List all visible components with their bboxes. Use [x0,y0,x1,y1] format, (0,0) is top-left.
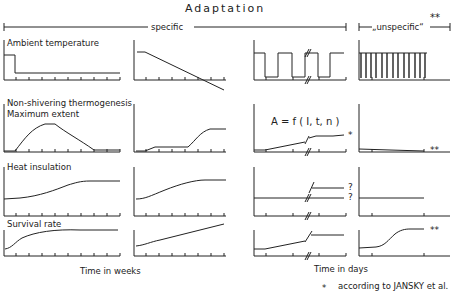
group-label-specific: specific [151,23,183,32]
row-label-heat-insulation: Heat insulation [7,163,71,172]
footnote-marker: * [322,284,326,293]
diagram-title: Adaptation [185,3,265,14]
row-sublabel-maximum-extent: Maximum extent [7,110,79,119]
row-survival-rate [4,224,450,260]
row-label-ambient-temperature: Ambient temperature [7,39,99,48]
panel-days-1 [254,104,346,156]
panel-weeks-2 [134,104,226,152]
formula: A = f ( I, t, n ) [271,117,339,127]
group-label-unspecific: „unspecific“ [372,23,424,32]
question-mark-lower: ? [348,193,353,202]
row-label-non-shivering-thermogenesis: Non-shivering thermogenesis [7,99,132,108]
footnote-text: according to JANSKY et al. [338,282,448,291]
question-mark-upper: ? [348,183,353,192]
panel-unspecific-1 [359,167,450,216]
panel-weeks-2 [134,40,226,90]
star-annotation-thermogenesis: * [348,131,353,140]
row-heat-insulation [4,167,450,220]
row-label-survival-rate: Survival rate [7,220,61,229]
panel-weeks-2 [134,167,226,216]
panel-weeks-2 [134,224,226,256]
x-axis-label-weeks: Time in weeks [80,267,141,276]
panel-days-1 [254,230,346,260]
panel-weeks-1 [4,167,120,216]
unspecific-double-star: ** [430,13,440,23]
panel-days-1 [254,40,346,84]
panel-days-1 [254,167,346,220]
panel-weeks-1 [4,230,120,256]
double-star-annotation-survival: ** [430,226,439,235]
x-axis-label-days: Time in days [314,265,368,274]
panel-unspecific-1 [359,40,450,80]
double-star-annotation-thermogenesis: ** [430,146,439,155]
